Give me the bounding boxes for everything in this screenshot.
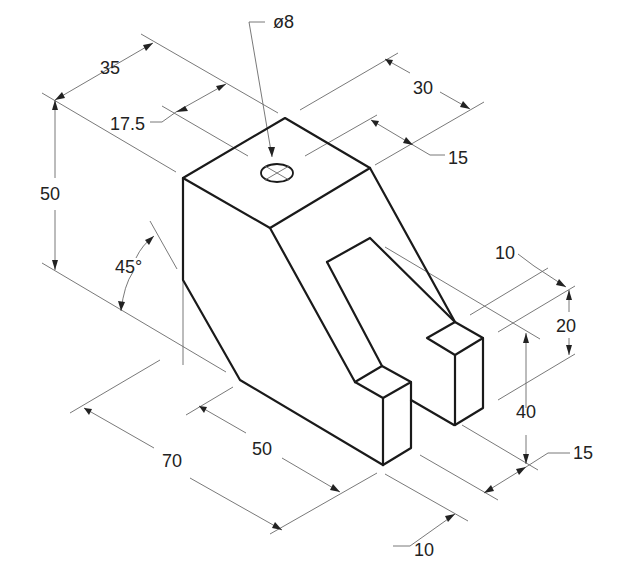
label-slot-15: 15	[573, 443, 593, 463]
label-prong-20: 20	[556, 316, 576, 336]
object-outline	[183, 118, 483, 465]
label-prong-10: 10	[495, 243, 515, 263]
label-width-17-5: 17.5	[110, 114, 145, 134]
label-depth-15: 15	[448, 148, 468, 168]
label-length-70: 70	[162, 451, 182, 471]
label-prong-width-10: 10	[414, 540, 434, 560]
label-height-50: 50	[40, 184, 60, 204]
dimension-lines	[42, 22, 575, 546]
label-depth-30: 30	[413, 78, 433, 98]
label-length-50: 50	[252, 439, 272, 459]
label-height-40: 40	[516, 402, 536, 422]
label-hole-diameter: ø8	[273, 12, 294, 32]
isometric-drawing: ø8 35 17.5 50 45° 30 15 10 20 40 15 70 5…	[0, 0, 626, 583]
label-width-35: 35	[100, 58, 120, 78]
label-angle-45: 45°	[115, 257, 142, 277]
